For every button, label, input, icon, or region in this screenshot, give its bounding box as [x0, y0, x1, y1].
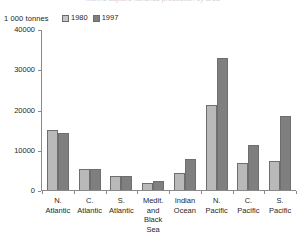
bar-1980	[269, 161, 280, 190]
category-label-line: Sea	[137, 225, 169, 235]
category-label: C.Pacific	[233, 196, 265, 234]
y-axis-tick-label: 20000	[14, 106, 35, 115]
x-axis-tick	[233, 191, 234, 194]
y-axis-tick-label: 30000	[14, 65, 35, 74]
category-label-line: Atlantic	[106, 206, 138, 216]
bar-1997	[248, 145, 259, 190]
cropped-chart-title: Marine capture fisheries production by a…	[0, 0, 305, 8]
x-axis-tick	[137, 191, 138, 194]
bar-group	[169, 30, 201, 190]
y-axis-tick: 10000	[38, 151, 41, 152]
bar-group	[137, 30, 169, 190]
bar-1980	[206, 105, 217, 190]
legend-entry-1997: 1997	[93, 14, 119, 22]
y-axis-tick: 30000	[38, 70, 41, 71]
bar-1980	[110, 176, 121, 190]
bar-1997	[185, 159, 196, 190]
legend-label-1980: 1980	[71, 14, 88, 22]
legend-swatch-1980	[62, 15, 69, 22]
x-axis-tick	[106, 191, 107, 194]
category-label-line: N.	[201, 196, 233, 206]
bar-1980	[237, 163, 248, 190]
category-label-line: Pacific	[264, 206, 296, 216]
bar-group	[74, 30, 106, 190]
category-label: N.Atlantic	[42, 196, 74, 234]
bar-1997	[121, 176, 132, 190]
category-label-line: S.	[106, 196, 138, 206]
y-axis-tick: 20000	[38, 111, 41, 112]
category-label-line: Atlantic	[42, 206, 74, 216]
bar-1980	[47, 130, 58, 190]
category-label: S.Atlantic	[106, 196, 138, 234]
x-axis-category-labels: N.AtlanticC.AtlanticS.AtlanticMedit.andB…	[42, 196, 296, 234]
y-axis-tick-label: 0	[31, 186, 35, 195]
bar-group	[42, 30, 74, 190]
y-axis-tick: 40000	[38, 30, 41, 31]
category-label-line: Pacific	[233, 206, 265, 216]
x-axis-tick	[201, 191, 202, 194]
category-label: Medit.andBlackSea	[137, 196, 169, 234]
bar-1980	[79, 169, 90, 190]
category-label: IndianOcean	[169, 196, 201, 234]
category-label: S.Pacific	[264, 196, 296, 234]
category-label-line: Black	[137, 215, 169, 225]
chart-legend: 1980 1997	[62, 14, 118, 22]
bar-1997	[58, 133, 69, 190]
legend-swatch-1997	[93, 15, 100, 22]
category-label-line: and	[137, 206, 169, 216]
bar-1980	[142, 183, 153, 190]
bar-chart: Marine capture fisheries production by a…	[0, 0, 305, 241]
category-label-line: Atlantic	[74, 206, 106, 216]
x-axis-tick	[264, 191, 265, 194]
bar-1980	[174, 173, 185, 190]
category-label: C.Atlantic	[74, 196, 106, 234]
legend-entry-1980: 1980	[62, 14, 88, 22]
x-axis-tick	[42, 191, 43, 194]
bar-group	[233, 30, 265, 190]
category-label-line: C.	[233, 196, 265, 206]
category-label-line: Pacific	[201, 206, 233, 216]
bar-group	[201, 30, 233, 190]
category-label-line: C.	[74, 196, 106, 206]
x-axis-tick	[74, 191, 75, 194]
category-label: N.Pacific	[201, 196, 233, 234]
bar-1997	[217, 58, 228, 190]
bar-groups	[42, 30, 296, 190]
bar-group	[264, 30, 296, 190]
category-label-line: Indian	[169, 196, 201, 206]
category-label-line: N.	[42, 196, 74, 206]
category-label-line: Ocean	[169, 206, 201, 216]
legend-label-1997: 1997	[102, 14, 119, 22]
y-axis-unit-label: 1 000 tonnes	[4, 14, 49, 23]
y-axis-tick-label: 10000	[14, 146, 35, 155]
y-axis-tick: 0	[38, 191, 41, 192]
x-axis-tick	[169, 191, 170, 194]
bar-1997	[280, 116, 291, 190]
x-axis-ticks	[42, 191, 296, 194]
category-label-line: S.	[264, 196, 296, 206]
y-axis-tick-label: 40000	[14, 25, 35, 34]
plot-area: 010000200003000040000	[41, 30, 296, 191]
cropped-chart-title-text: Marine capture fisheries production by a…	[0, 0, 305, 2]
category-label-line: Medit.	[137, 196, 169, 206]
x-axis-tick	[296, 191, 297, 194]
bar-1997	[153, 181, 164, 190]
bar-1997	[90, 169, 101, 190]
bar-group	[106, 30, 138, 190]
